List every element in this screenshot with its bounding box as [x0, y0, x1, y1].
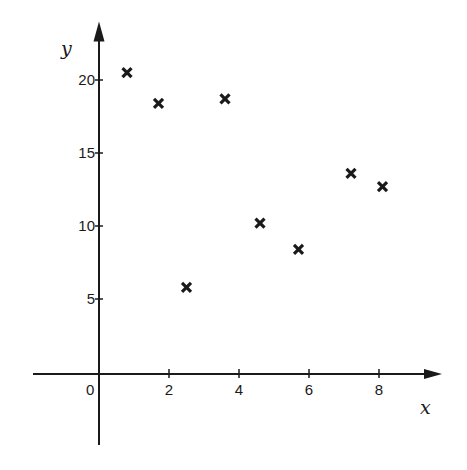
- y-tick-label: 5: [87, 290, 95, 307]
- data-point: [347, 169, 356, 178]
- data-point: [256, 219, 265, 228]
- data-point: [182, 283, 191, 292]
- y-axis-title: y: [60, 37, 72, 59]
- x-axis-arrow-icon: [424, 369, 442, 379]
- data-point: [123, 68, 132, 77]
- x-axis-title: x: [420, 396, 431, 418]
- y-axis-arrow-icon: [94, 22, 105, 42]
- origin-label: 0: [86, 381, 94, 398]
- y-tick-label: 20: [78, 71, 95, 88]
- data-point: [221, 94, 230, 103]
- x-tick-label: 2: [165, 381, 173, 398]
- scatter-chart: x y 0 2468 5101520: [0, 0, 467, 470]
- x-tick-label: 8: [375, 381, 383, 398]
- data-markers: [123, 68, 388, 292]
- data-point: [378, 182, 387, 191]
- x-tick-label: 6: [305, 381, 313, 398]
- data-point: [294, 245, 303, 254]
- x-tick-label: 4: [235, 381, 243, 398]
- data-point: [154, 99, 163, 108]
- y-tick-label: 15: [78, 144, 95, 161]
- y-tick-label: 10: [78, 217, 95, 234]
